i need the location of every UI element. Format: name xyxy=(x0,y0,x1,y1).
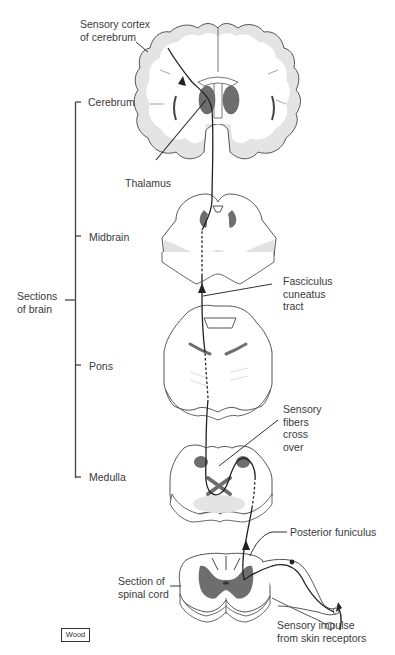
midbrain-section xyxy=(162,194,276,284)
credit-box: Wood xyxy=(61,628,90,642)
label-fasciculus-cuneatus: Fasciculus cuneatus tract xyxy=(283,275,333,313)
bracket-label-pons: Pons xyxy=(89,360,113,373)
bracket-label-cerebrum: Cerebrum xyxy=(88,96,135,109)
sections-bracket xyxy=(65,102,81,478)
diagram-artwork xyxy=(0,0,395,655)
label-posterior-funiculus: Posterior funiculus xyxy=(290,526,376,539)
pons-section xyxy=(164,305,272,420)
label-section-spinal-cord: Section of spinal cord xyxy=(118,575,169,600)
bracket-label-medulla: Medulla xyxy=(89,471,126,484)
bracket-label-midbrain: Midbrain xyxy=(89,231,129,244)
label-sensory-cortex: Sensory cortex of cerebrum xyxy=(80,18,150,43)
label-sensory-impulse: Sensory impulse from skin receptors xyxy=(277,619,366,644)
label-sensory-fibers-cross: Sensory fibers cross over xyxy=(283,403,322,453)
label-thalamus: Thalamus xyxy=(125,177,171,190)
cerebrum-section xyxy=(134,24,300,159)
medulla-section xyxy=(170,445,272,522)
label-sections-of-brain: Sections of brain xyxy=(17,290,57,315)
